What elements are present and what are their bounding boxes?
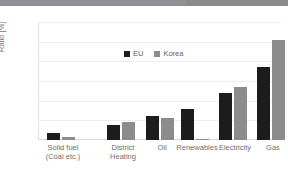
- x-label-solid-fuel-line1: Solid fuel: [48, 143, 79, 152]
- y-axis-title: Ratio [%]: [0, 22, 6, 52]
- bar-korea-gas: [272, 40, 285, 140]
- bar-chart: Ratio [%] 60 50 40 30 20 10 0 EU Korea: [0, 0, 288, 191]
- window-top-band-left: [0, 0, 186, 6]
- x-label-solid-fuel-line2: (Coal etc.): [46, 152, 81, 161]
- bar-group-electricity: Electricity: [216, 22, 254, 140]
- bar-group-gas: Gas: [254, 22, 288, 140]
- x-label-district-heating-line1: District: [112, 143, 135, 152]
- bar-group-oil: Oil: [143, 22, 181, 140]
- bar-eu-electricity: [219, 93, 232, 140]
- bar-korea-renewables: [196, 139, 209, 140]
- window-top-band: [0, 0, 288, 6]
- bar-korea-solid-fuel: [62, 137, 75, 140]
- bar-group-renewables: Renewables: [178, 22, 216, 140]
- bar-korea-electricity: [234, 87, 247, 140]
- plot-area: 60 50 40 30 20 10 0 EU Korea Solid fuel …: [38, 22, 281, 140]
- bar-eu-gas: [257, 67, 270, 140]
- x-label-gas: Gas: [246, 143, 288, 152]
- x-label-gas-line1: Gas: [266, 143, 280, 152]
- bar-korea-oil: [161, 118, 174, 140]
- bar-group-solid-fuel: Solid fuel (Coal etc.): [44, 22, 82, 140]
- bar-korea-district-heating: [122, 122, 135, 140]
- x-label-solid-fuel: Solid fuel (Coal etc.): [36, 143, 90, 161]
- bar-eu-district-heating: [107, 125, 120, 140]
- bar-group-district-heating: District Heating: [104, 22, 142, 140]
- x-label-oil-line1: Oil: [157, 143, 166, 152]
- x-label-district-heating-line2: Heating: [110, 152, 136, 161]
- bar-eu-renewables: [181, 109, 194, 140]
- bar-eu-solid-fuel: [47, 133, 60, 140]
- bar-eu-oil: [146, 116, 159, 140]
